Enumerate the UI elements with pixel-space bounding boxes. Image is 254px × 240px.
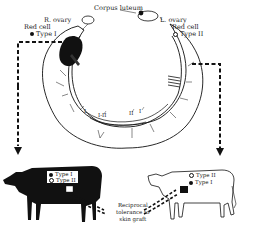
left-red-cell-type: Type I xyxy=(30,31,57,38)
right-red-cell-type: Type II xyxy=(173,31,203,38)
right-ovary-graft xyxy=(59,36,82,66)
vessel-label-3: II xyxy=(129,110,133,117)
right-arrowhead-icon xyxy=(216,148,224,156)
white-cow-type2-row: Type I xyxy=(189,179,212,186)
open-dot-icon xyxy=(189,173,194,178)
black-cow-type-box: Type I Type II xyxy=(46,170,79,184)
filled-dot-icon xyxy=(189,181,193,185)
white-cow-graft-patch xyxy=(180,186,188,193)
vessel-label-1: I xyxy=(84,108,86,115)
vessel-label-2: I-II xyxy=(98,112,106,119)
open-dot-icon xyxy=(173,32,178,37)
filled-dot-icon xyxy=(30,32,34,36)
vessel-label-4: I xyxy=(139,108,141,115)
black-cow-graft-patch xyxy=(66,186,73,192)
left-arrowhead-icon xyxy=(14,147,22,155)
black-cow-type2-row: Type II xyxy=(49,177,76,183)
left-horn-stripes xyxy=(168,76,180,87)
open-dot-icon xyxy=(49,178,54,183)
left-dashed-arrow xyxy=(18,42,62,86)
right-dashed-arrow xyxy=(192,64,220,148)
corpus-luteum-label: Corpus luteum xyxy=(94,5,143,12)
tolerance-caption: Reciprocal tolerance to skin graft xyxy=(116,202,150,223)
filled-dot-icon xyxy=(49,173,53,177)
right-ovary-icon xyxy=(82,16,94,24)
white-cow-type1-row: Type II xyxy=(189,172,216,179)
